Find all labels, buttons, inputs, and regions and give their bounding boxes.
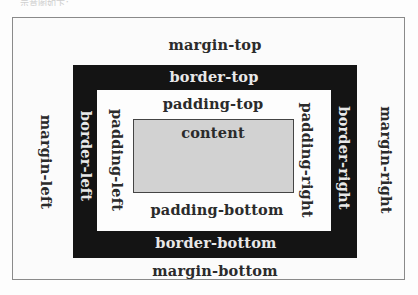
padding-top-label: padding-top [163, 97, 264, 112]
margin-left-label: margin-left [39, 115, 54, 209]
margin-right-label: margin-right [379, 106, 394, 214]
page-header-fragment: ……示意图如下： [2, 0, 74, 6]
padding-left-label: padding-left [110, 109, 125, 211]
margin-top-label: margin-top [168, 38, 261, 53]
border-left-label: border-left [79, 111, 94, 201]
padding-bottom-label: padding-bottom [150, 203, 283, 218]
padding-right-label: padding-right [300, 102, 315, 217]
border-bottom-label: border-bottom [155, 236, 276, 251]
border-right-label: border-right [337, 106, 352, 209]
margin-bottom-label: margin-bottom [152, 264, 277, 279]
content-label: content [181, 126, 245, 141]
border-top-label: border-top [170, 70, 259, 85]
